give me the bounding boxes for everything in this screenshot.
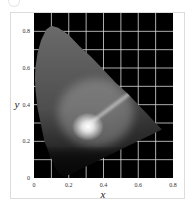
y-tick-label: 0.8: [23, 28, 31, 34]
chromaticity-chart: 00.20.40.60.8 00.20.40.60.8 x y: [0, 0, 195, 214]
x-tick-label: 0: [33, 182, 36, 188]
x-tick-label: 0.2: [65, 182, 73, 188]
y-axis-label: y: [14, 98, 20, 110]
x-axis-label: x: [100, 188, 106, 200]
y-tick-label: 0.2: [23, 138, 31, 144]
x-tick-label: 0.6: [135, 182, 143, 188]
x-tick-label: 0.8: [169, 182, 177, 188]
y-tick-label: 0: [27, 175, 30, 181]
white-point-glow: [72, 113, 104, 141]
y-tick-label: 0.6: [23, 65, 31, 71]
y-tick-label: 0.4: [23, 102, 31, 108]
y-axis-ticks: 00.20.40.60.8: [23, 28, 31, 181]
